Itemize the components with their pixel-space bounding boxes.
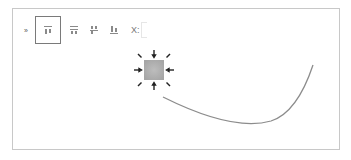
arc-connector-line[interactable] — [13, 9, 341, 151]
drawing-canvas[interactable]: » — [12, 8, 340, 150]
